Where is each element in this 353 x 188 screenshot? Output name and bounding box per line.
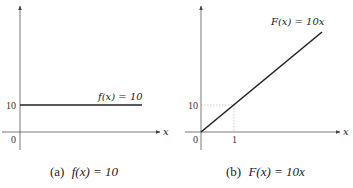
panel-b-x-label: x — [343, 126, 349, 137]
panel-b-ytick-10: 10 — [188, 100, 198, 111]
panel-a-annotation: f(x) = 10 — [97, 91, 143, 102]
panel-b-xtick-1: 1 — [232, 134, 237, 145]
panel-b-caption-label: (b) — [226, 164, 241, 179]
panel-a-chart: 10 0 x f(x) = 10 — [2, 6, 169, 150]
panel-a-caption-label: (a) — [50, 164, 64, 179]
panel-a-caption-math: f(x) = 10 — [72, 164, 119, 179]
panel-a-origin-label: 0 — [11, 134, 16, 145]
panel-b-caption-math: F(x) = 10x — [247, 164, 305, 179]
panel-a-x-label: x — [163, 126, 169, 137]
panel-b-chart: 10 1 0 x F(x) = 10x — [185, 6, 349, 150]
panel-b-origin-label: 0 — [193, 134, 198, 145]
panel-b-function-line — [201, 32, 322, 132]
panel-b-annotation: F(x) = 10x — [270, 16, 325, 27]
panel-b-caption: (b) F(x) = 10x — [226, 164, 305, 179]
panel-a-caption: (a) f(x) = 10 — [50, 164, 119, 179]
panel-a-ytick-10: 10 — [6, 100, 16, 111]
figure: 10 0 x f(x) = 10 10 1 0 x F(x) = 10x (a)… — [0, 0, 353, 188]
